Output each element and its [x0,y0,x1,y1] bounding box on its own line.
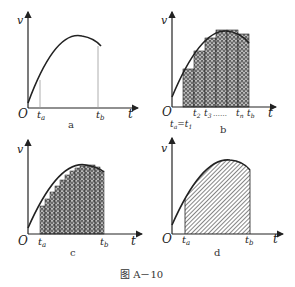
origin-label: O [18,107,28,121]
panel-d: v O ta tb t d [161,138,283,258]
figure-caption: 图 A－10 [120,269,163,280]
ellipsis: …… [213,110,227,118]
tb-label: tb [100,236,109,249]
coarse-rectangles [183,30,249,107]
t-axis-label: t [268,106,273,120]
panel-label: d [214,247,221,258]
v-label: v [161,14,168,27]
tb-label: tb [247,108,255,119]
tb-label: tb [96,109,105,122]
origin-label: O [18,234,28,248]
fine-rectangles [40,165,104,234]
v-label: v [17,14,24,27]
ta-eq-t1-label: ta=t1 [170,119,192,130]
ta-label: ta [38,236,46,249]
origin-label: O [162,105,172,119]
ta-label: ta [37,109,45,122]
t-axis-label: t [273,232,278,246]
t-axis-label: t [128,107,133,121]
panel-a: v O ta tb t a [17,12,138,130]
t3-label: t3 [204,108,212,119]
tb-label: tb [245,234,254,247]
shaded-area [185,160,250,234]
ta-label: ta [182,234,190,247]
panel-b: v O t2 t3 …… tn tb t ta=t1 b [161,12,276,135]
v-label: v [17,143,24,156]
panel-label: a [68,119,74,130]
origin-label: O [162,232,172,246]
panel-c: v O ta tb t c [17,140,142,258]
v-label: v [161,142,168,155]
tn-label: tn [236,108,244,119]
figure-canvas: v O ta tb t a v O t2 t3 …… tn tb t ta=t1… [0,0,295,287]
panel-label: b [220,124,226,135]
panel-label: c [70,247,76,258]
velocity-curve [28,36,101,103]
t-axis-label: t [131,234,136,248]
t2-label: t2 [193,108,201,119]
